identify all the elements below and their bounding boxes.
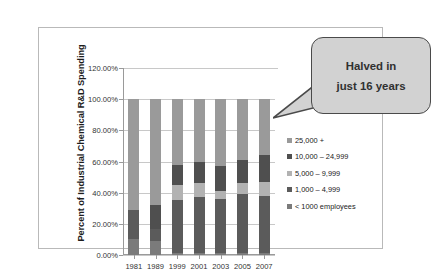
y-tick-label: 120.00% bbox=[88, 64, 118, 73]
legend-swatch-icon bbox=[287, 154, 292, 159]
y-tick-label: 80.00% bbox=[92, 126, 118, 135]
x-tick-mark bbox=[156, 255, 157, 259]
x-tick-label: 2001 bbox=[191, 262, 208, 271]
x-tick-mark bbox=[177, 255, 178, 259]
y-tick-label: 100.00% bbox=[88, 95, 118, 104]
callout-line-2: just 16 years bbox=[336, 80, 405, 92]
x-tick-mark bbox=[134, 255, 135, 259]
chart-frame: Percent of Industrial Chemical R&D Spend… bbox=[38, 27, 383, 249]
y-tick-label: 40.00% bbox=[92, 188, 118, 197]
legend-item: 10,000 – 24,999 bbox=[287, 149, 382, 166]
callout-line-1: Halved in bbox=[346, 60, 397, 72]
chart-legend: 25,000 +10,000 – 24,9995,000 – 9,9991,00… bbox=[287, 132, 382, 215]
plot-area: 0.00%20.00%40.00%60.00%80.00%100.00%120.… bbox=[123, 68, 275, 255]
legend-label: 5,000 – 9,999 bbox=[295, 169, 340, 178]
legend-swatch-icon bbox=[287, 171, 292, 176]
legend-swatch-icon bbox=[287, 187, 292, 192]
y-tick-label: 60.00% bbox=[92, 157, 118, 166]
x-tick-mark bbox=[242, 255, 243, 259]
legend-item: 1,000 – 4,999 bbox=[287, 182, 382, 199]
x-tick-mark bbox=[264, 255, 265, 259]
callout-bubble: Halved in just 16 years bbox=[311, 37, 431, 114]
y-tick-label: 20.00% bbox=[92, 219, 118, 228]
x-tick-label: 2005 bbox=[234, 262, 251, 271]
x-tick-label: 1981 bbox=[125, 262, 142, 271]
legend-item: 5,000 – 9,999 bbox=[287, 165, 382, 182]
legend-item: < 1000 employees bbox=[287, 198, 382, 215]
x-tick-label: 1989 bbox=[147, 262, 164, 271]
legend-label: 10,000 – 24,999 bbox=[295, 152, 348, 161]
legend-label: 1,000 – 4,999 bbox=[295, 185, 340, 194]
y-axis-title: Percent of Industrial Chemical R&D Spend… bbox=[76, 36, 86, 251]
legend-label: 25,000 + bbox=[295, 136, 324, 145]
y-tick-label: 0.00% bbox=[96, 251, 118, 260]
y-tick-mark bbox=[119, 255, 123, 256]
x-tick-label: 1999 bbox=[169, 262, 186, 271]
x-tick-mark bbox=[199, 255, 200, 259]
x-tick-mark bbox=[221, 255, 222, 259]
x-axis-labels: 1981198919992001200320052007 bbox=[123, 68, 275, 255]
legend-swatch-icon bbox=[287, 204, 292, 209]
legend-label: < 1000 employees bbox=[295, 202, 356, 211]
legend-swatch-icon bbox=[287, 138, 292, 143]
x-tick-label: 2003 bbox=[212, 262, 229, 271]
x-tick-label: 2007 bbox=[256, 262, 273, 271]
legend-item: 25,000 + bbox=[287, 132, 382, 149]
